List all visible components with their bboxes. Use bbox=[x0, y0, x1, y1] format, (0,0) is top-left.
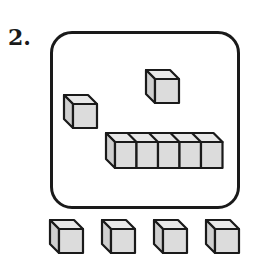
rod-cube-front-face bbox=[115, 142, 137, 168]
rod-cube-front-face bbox=[158, 142, 180, 168]
rod-cube-front-face bbox=[137, 142, 159, 168]
cube-front-face bbox=[155, 79, 179, 103]
unit-cube-icon bbox=[50, 220, 83, 253]
cube-front-face bbox=[59, 229, 83, 253]
unit-cube-icon bbox=[154, 220, 187, 253]
inside-box-cubes bbox=[64, 70, 223, 168]
unit-cube-icon bbox=[146, 70, 179, 103]
cube-front-face bbox=[73, 104, 97, 128]
cube-rod-icon bbox=[106, 133, 223, 168]
cube-front-face bbox=[111, 229, 135, 253]
rod-cube-front-face bbox=[201, 142, 223, 168]
unit-cube-icon bbox=[102, 220, 135, 253]
unit-cube-icon bbox=[206, 220, 239, 253]
cube-front-face bbox=[215, 229, 239, 253]
rod-top-face bbox=[106, 133, 223, 142]
below-box-cubes bbox=[50, 220, 239, 253]
rod-cube-front-face bbox=[180, 142, 202, 168]
cube-front-face bbox=[163, 229, 187, 253]
unit-cube-icon bbox=[64, 95, 97, 128]
cubes-art bbox=[0, 0, 256, 265]
